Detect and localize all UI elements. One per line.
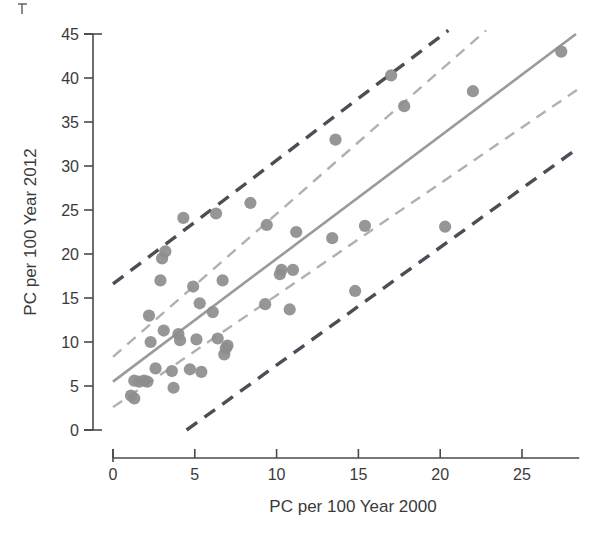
data-point [275,264,287,276]
data-point [174,334,186,346]
data-point [290,226,302,238]
axis-label-layer: PC per 100 Year 2000 PC per 100 Year 201… [21,148,437,516]
data-point [210,207,222,219]
data-point [158,324,170,336]
scatter-plot-figure: 0510152025303540450510152025 PC per 100 … [0,0,615,539]
data-point [207,306,219,318]
y-axis-tick-label: 25 [61,202,79,219]
data-point [261,219,273,231]
data-point [145,336,157,348]
y-axis-tick-label: 45 [61,26,79,43]
y-axis-tick-label: 35 [61,114,79,131]
data-series-layer [113,30,578,430]
y-axis-tick-label: 40 [61,70,79,87]
x-axis-title: PC per 100 Year 2000 [269,497,436,516]
data-point [398,100,410,112]
x-axis-tick-label: 25 [513,466,531,483]
data-point [217,274,229,286]
prediction-band-lower [187,148,578,430]
data-point [359,220,371,232]
data-point [149,362,161,374]
data-point [154,274,166,286]
data-point [349,285,361,297]
data-point [128,392,140,404]
data-point [284,303,296,315]
data-point [221,339,233,351]
data-point [184,363,196,375]
x-axis-tick-label: 5 [190,466,199,483]
data-point [166,365,178,377]
data-point [143,310,155,322]
plot-canvas: 0510152025303540450510152025 PC per 100 … [0,0,615,539]
regression-line [113,34,576,382]
data-point [555,46,567,58]
data-point [287,264,299,276]
x-axis-tick-label: 0 [109,466,118,483]
y-axis-tick-label: 0 [70,422,79,439]
axis-layer: 0510152025303540450510152025 [61,26,579,483]
data-point [187,280,199,292]
x-axis-tick-label: 15 [350,466,368,483]
x-axis-tick-label: 20 [431,466,449,483]
data-point [326,232,338,244]
data-point [177,212,189,224]
data-point [385,69,397,81]
data-point [329,134,341,146]
data-point [194,297,206,309]
data-point [195,366,207,378]
data-point [244,197,256,209]
y-axis-tick-label: 10 [61,334,79,351]
y-axis-tick-label: 20 [61,246,79,263]
data-point [167,382,179,394]
data-point [190,333,202,345]
y-axis-tick-label: 30 [61,158,79,175]
data-point [212,332,224,344]
y-axis-title: PC per 100 Year 2012 [21,148,40,315]
y-axis-tick-label: 15 [61,290,79,307]
data-point [439,221,451,233]
data-point [259,298,271,310]
confidence-band-lower [113,89,578,407]
data-point [159,245,171,257]
confidence-band-upper [113,30,486,356]
y-axis-tick-label: 5 [70,378,79,395]
data-point [141,376,153,388]
data-point [467,85,479,97]
x-axis-tick-label: 10 [268,466,286,483]
